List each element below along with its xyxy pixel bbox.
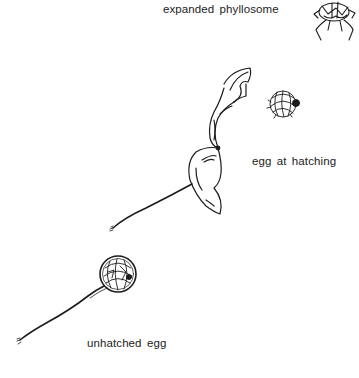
life-stage-diagram: expanded phyllosome egg at hatching unha… [0, 0, 359, 378]
label-unhatched-egg: unhatched egg [87, 337, 166, 349]
label-egg-at-hatching: egg at hatching [252, 155, 336, 167]
phyllosome-illustration [314, 2, 355, 40]
label-expanded-phyllosome: expanded phyllosome [163, 3, 279, 15]
unhatched-egg-illustration [17, 256, 136, 344]
hatching-larva-illustration [267, 91, 300, 118]
hatching-membrane-illustration [110, 68, 251, 231]
